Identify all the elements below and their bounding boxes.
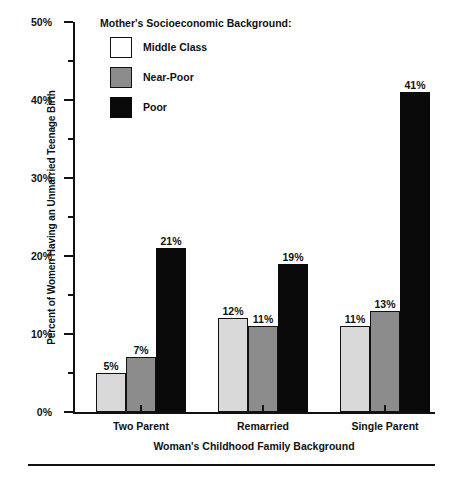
x-axis-label-single-parent: Single Parent xyxy=(351,420,418,432)
x-tick-two-parent xyxy=(140,405,141,413)
y-tick-major xyxy=(64,21,73,23)
bottom-divider xyxy=(28,464,435,466)
bar-single-parent-middle-class: 11% xyxy=(340,326,370,412)
bar-value-label: 11% xyxy=(345,313,365,325)
y-tick-label: 30% xyxy=(12,172,52,184)
x-tick-single-parent xyxy=(384,405,385,413)
bar-value-label: 13% xyxy=(374,298,395,310)
white-square-icon xyxy=(110,37,132,58)
legend-item-middle-class: Middle Class xyxy=(100,35,292,59)
bar-two-parent-middle-class: 5% xyxy=(96,373,126,412)
bar-single-parent-near-poor: 13% xyxy=(370,311,400,412)
bar-remarried-middle-class: 12% xyxy=(218,318,248,412)
gray-square-icon xyxy=(110,67,132,88)
y-tick-major xyxy=(64,99,73,101)
y-tick-label: 50% xyxy=(12,16,52,28)
legend-item-poor: Poor xyxy=(100,95,292,119)
y-tick-major xyxy=(64,411,73,413)
bar-value-label: 21% xyxy=(160,235,181,247)
bar-value-label: 12% xyxy=(222,305,243,317)
x-axis-label-remarried: Remarried xyxy=(237,420,289,432)
bar-chart-figure: Percent of Women Having an Unmarried Tee… xyxy=(0,0,451,478)
legend-label-poor: Poor xyxy=(143,101,167,113)
bar-remarried-near-poor: 11% xyxy=(248,326,278,412)
legend: Mother's Socioeconomic Background: Middl… xyxy=(100,17,292,125)
x-axis-title: Woman's Childhood Family Background xyxy=(73,440,435,452)
black-square-icon xyxy=(110,97,132,118)
x-axis-label-two-parent: Two Parent xyxy=(113,420,169,432)
y-tick-label: 40% xyxy=(12,94,52,106)
y-tick-major xyxy=(64,333,73,335)
y-tick-label: 0% xyxy=(12,406,52,418)
bar-value-label: 7% xyxy=(133,344,148,356)
bar-single-parent-poor: 41% xyxy=(400,92,430,412)
legend-label-middle-class: Middle Class xyxy=(143,41,207,53)
y-tick-major xyxy=(64,177,73,179)
y-tick-major xyxy=(64,255,73,257)
y-axis-title: Percent of Women Having an Unmarried Tee… xyxy=(46,23,57,413)
bar-value-label: 41% xyxy=(404,79,425,91)
bar-two-parent-poor: 21% xyxy=(156,248,186,412)
legend-title: Mother's Socioeconomic Background: xyxy=(100,17,292,29)
legend-label-near-poor: Near-Poor xyxy=(143,71,194,83)
legend-item-near-poor: Near-Poor xyxy=(100,65,292,89)
y-tick-label: 10% xyxy=(12,328,52,340)
x-tick-remarried xyxy=(262,405,263,413)
bar-value-label: 19% xyxy=(282,251,303,263)
bar-remarried-poor: 19% xyxy=(278,264,308,412)
y-tick-label: 20% xyxy=(12,250,52,262)
x-axis-line xyxy=(73,412,435,414)
bar-value-label: 5% xyxy=(103,360,118,372)
bar-value-label: 11% xyxy=(253,313,273,325)
